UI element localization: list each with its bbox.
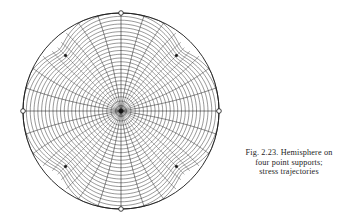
- hemisphere-stress-trajectory-diagram: [0, 0, 240, 224]
- caption-line-1: Fig. 2.23. Hemisphere on: [222, 148, 356, 158]
- support-west: [21, 109, 26, 114]
- caption-line-2: four point supports;: [222, 158, 356, 168]
- trajectory-radial-35: [121, 111, 184, 174]
- node-ne: [175, 54, 177, 56]
- mesh-svg-canvas: [0, 0, 240, 224]
- support-north: [119, 11, 124, 16]
- figure-page: Fig. 2.23. Hemisphere on four point supp…: [0, 0, 359, 224]
- figure-caption: Fig. 2.23. Hemisphere on four point supp…: [222, 148, 356, 177]
- caption-line-3: stress trajectories: [222, 167, 356, 177]
- node-se: [175, 165, 177, 167]
- trajectory-radial-15: [58, 48, 121, 111]
- node-nw: [64, 54, 66, 56]
- support-south: [119, 207, 124, 212]
- trajectory-radial-5: [121, 48, 184, 111]
- node-sw: [64, 165, 66, 167]
- support-east: [217, 109, 222, 114]
- node-crown: [119, 109, 123, 113]
- trajectory-radial-25: [58, 111, 121, 174]
